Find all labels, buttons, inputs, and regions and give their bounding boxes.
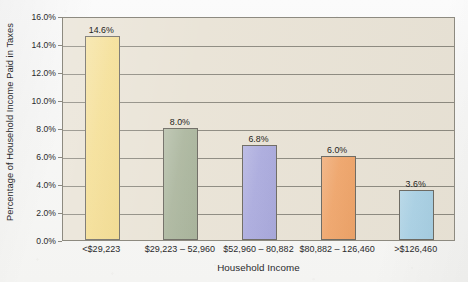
bar-value-label: 8.0% xyxy=(150,117,210,127)
y-axis-tick-label: 8.0% xyxy=(14,124,56,134)
y-axis-tick-label: 4.0% xyxy=(14,180,56,190)
x-axis-tick-label: >$126,460 xyxy=(376,244,455,254)
gridline xyxy=(63,102,454,103)
gridline xyxy=(63,74,454,75)
bar xyxy=(242,145,277,240)
bar-value-label: 3.6% xyxy=(386,179,446,189)
y-axis-tick-label: 14.0% xyxy=(14,40,56,50)
gridline xyxy=(63,46,454,47)
plot-area xyxy=(62,17,455,241)
y-axis-tick-label: 10.0% xyxy=(14,96,56,106)
y-axis-title: Percentage of Household Income Paid in T… xyxy=(3,1,17,243)
bar xyxy=(85,36,120,240)
y-axis-tick-label: 16.0% xyxy=(14,12,56,22)
chart-page: Percentage of Household Income Paid in T… xyxy=(0,0,468,282)
x-axis-tick-label: <$29,223 xyxy=(62,244,141,254)
gridline xyxy=(63,130,454,131)
y-axis-tick-label: 2.0% xyxy=(14,208,56,218)
x-axis-tick-label: $29,223 – 52,960 xyxy=(141,244,220,254)
bar-value-label: 6.8% xyxy=(229,134,289,144)
x-axis-tick-label: $52,960 – 80,882 xyxy=(219,244,298,254)
bar-value-label: 6.0% xyxy=(307,145,367,155)
bar-sheen xyxy=(86,37,119,239)
x-axis-title: Household Income xyxy=(62,262,455,273)
bar xyxy=(321,156,356,240)
y-axis-tick-label: 12.0% xyxy=(14,68,56,78)
x-axis-tick-label: $80,882 – 126,460 xyxy=(298,244,377,254)
bar xyxy=(163,128,198,240)
bar-value-label: 14.6% xyxy=(71,25,131,35)
bar-sheen xyxy=(322,157,355,239)
bar-sheen xyxy=(400,191,433,239)
bar xyxy=(399,190,434,240)
bar-sheen xyxy=(243,146,276,239)
bar-sheen xyxy=(164,129,197,239)
y-axis-tick-label: 6.0% xyxy=(14,152,56,162)
y-axis-tick-label: 0.0% xyxy=(14,236,56,246)
